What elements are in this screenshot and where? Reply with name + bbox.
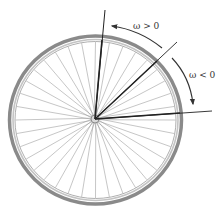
spoke — [68, 47, 93, 116]
spoke — [98, 121, 171, 147]
spoke — [97, 122, 157, 170]
spoke — [94, 42, 95, 116]
spoke — [20, 93, 92, 117]
spoke — [17, 120, 92, 133]
spoke — [99, 119, 175, 134]
wheel-diagram: ω > 0 ω < 0 — [0, 0, 224, 208]
omega-positive-label: ω > 0 — [133, 21, 160, 31]
omega-negative-label: ω < 0 — [189, 70, 216, 80]
spoke — [17, 106, 92, 119]
spoke — [34, 70, 93, 116]
spoke — [95, 123, 110, 197]
spoke — [82, 43, 96, 115]
spoke — [97, 122, 123, 193]
spoke — [97, 60, 147, 116]
spoke — [56, 52, 94, 115]
spoke — [44, 60, 92, 117]
spoke — [16, 118, 92, 120]
spoke — [34, 121, 92, 171]
spoke — [98, 121, 147, 180]
spoke — [26, 81, 91, 118]
